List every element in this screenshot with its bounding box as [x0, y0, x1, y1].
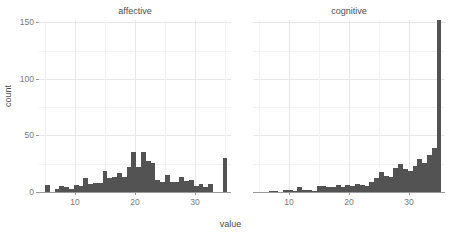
x-tick-mark — [195, 192, 196, 195]
y-tick-label: 100 — [20, 74, 34, 84]
x-axis-title-label: value — [220, 219, 242, 229]
panel-cognitive — [253, 20, 445, 192]
panel-affective — [39, 20, 231, 192]
histogram-figure: count 050100150 affective cognitive 1020… — [0, 0, 461, 237]
y-axis-title: count — [1, 0, 15, 192]
x-tick-label: 10 — [70, 197, 79, 207]
x-tick-mark — [409, 192, 410, 195]
y-tick-mark — [36, 79, 39, 80]
plot-area-cognitive — [253, 20, 445, 192]
y-tick-mark — [36, 192, 39, 193]
y-tick-label: 150 — [20, 17, 34, 27]
histogram-bar — [208, 184, 213, 192]
y-tick-mark — [36, 135, 39, 136]
x-tick-label: 30 — [190, 197, 199, 207]
y-tick-mark — [36, 22, 39, 23]
x-tick-label: 20 — [130, 197, 139, 207]
plot-area-affective — [39, 20, 231, 192]
y-axis-tick-labels: 050100150 — [14, 0, 37, 237]
panel-title-affective: affective — [39, 4, 231, 18]
x-tick-label: 10 — [284, 197, 293, 207]
y-tick-label: 50 — [25, 130, 34, 140]
x-tick-mark — [75, 192, 76, 195]
panel-title-cognitive: cognitive — [253, 4, 445, 18]
histogram-bar — [45, 185, 50, 192]
bars-cognitive — [253, 20, 445, 192]
x-tick-mark — [349, 192, 350, 195]
x-tick-mark — [135, 192, 136, 195]
x-axis-title: value — [0, 219, 461, 229]
y-tick-label: 0 — [29, 187, 34, 197]
histogram-bar — [223, 158, 228, 192]
x-tick-label: 30 — [404, 197, 413, 207]
y-axis-title-label: count — [3, 85, 13, 107]
x-tick-label: 20 — [344, 197, 353, 207]
bars-affective — [39, 20, 231, 192]
histogram-bar — [437, 20, 442, 192]
x-tick-mark — [289, 192, 290, 195]
